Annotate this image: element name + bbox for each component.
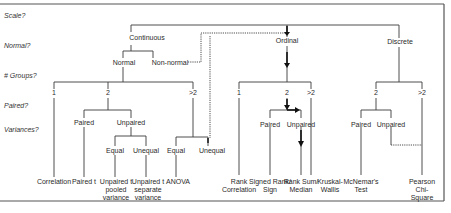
test-anova: ANOVA — [166, 178, 190, 186]
node-cont-groups-2: 2 — [106, 89, 110, 97]
test-rank-sum: Rank Sum/ Median — [284, 178, 319, 194]
question-normal: Normal? — [4, 42, 30, 50]
node-disc-paired: Paired — [351, 121, 371, 129]
node-ordinal: Ordinal — [274, 37, 301, 45]
node-continuous: Continuous — [129, 34, 164, 42]
test-kruskal-wallis: Kruskal- Wallis — [317, 178, 343, 194]
node-cont-groups-1: 1 — [52, 89, 56, 97]
test-correlation: Correlation — [37, 178, 71, 186]
test-mcnemar: McNemar's Test — [343, 178, 378, 194]
node-cont-unpaired: Unpaired — [117, 119, 145, 127]
node-non-normal: Non-normal — [152, 59, 189, 67]
question-variances: Variances? — [4, 126, 39, 134]
node-disc-groups-more: >2 — [418, 89, 426, 97]
node-ord-unpaired: Unpaired — [287, 121, 315, 129]
node-cont-groups-more: >2 — [189, 89, 197, 97]
question-groups: # Groups? — [4, 72, 37, 80]
node-cont-equal: Equal — [106, 147, 124, 155]
node-ord-groups-more: >2 — [307, 89, 315, 97]
node-disc-groups-2: 2 — [374, 89, 378, 97]
node-ord-paired: Paired — [260, 121, 280, 129]
node-ord-groups-2: 2 — [285, 89, 289, 97]
node-cont-paired: Paired — [74, 119, 94, 127]
question-scale: Scale? — [4, 12, 25, 20]
node-cont-unequal: Unequal — [133, 147, 159, 155]
node-discrete: Discrete — [387, 38, 413, 46]
test-unpaired-t-pooled: Unpaired t pooled variance — [100, 178, 132, 202]
node-disc-unpaired: Unpaired — [377, 121, 405, 129]
test-unpaired-t-separate: Unpaired t separate variance — [132, 178, 164, 202]
test-chi-square: Pearson Chi-Square — [408, 178, 437, 202]
node-ord-groups-1: 1 — [237, 89, 241, 97]
statistical-test-decision-tree: Scale? Normal? # Groups? Paired? Varianc… — [0, 0, 451, 213]
test-paired-t: Paired t — [72, 178, 96, 186]
node-anova-equal: Equal — [167, 147, 185, 155]
question-paired: Paired? — [4, 102, 28, 110]
node-normal: Normal — [113, 59, 136, 67]
node-anova-unequal: Unequal — [199, 147, 225, 155]
